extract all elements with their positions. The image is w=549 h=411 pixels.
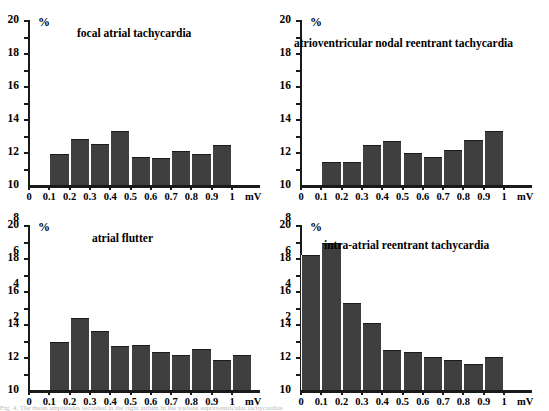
- bar-top-edge: [213, 360, 231, 361]
- y-axis-tick: 2: [24, 374, 28, 376]
- x-axis-tick: [442, 185, 444, 190]
- x-axis-tick: [150, 185, 152, 190]
- x-axis-tick-label: 0.7: [437, 192, 450, 203]
- bar-top-edge: [383, 350, 401, 351]
- bar-top-edge: [322, 162, 340, 163]
- chart-panel-atrial-flutter: 2468101214161820%00.10.20.30.40.50.60.70…: [0, 205, 274, 410]
- x-axis-tick: [69, 390, 71, 395]
- histogram-bar: [212, 145, 232, 185]
- y-axis-tick: 2: [24, 169, 28, 171]
- histogram-bar: [49, 154, 69, 185]
- y-axis-tick-label: 10: [280, 179, 292, 191]
- x-axis: [28, 185, 260, 188]
- y-axis-tick-label: 10: [280, 384, 292, 396]
- x-axis-tick-label: 1: [229, 192, 234, 203]
- y-axis-tick-label: 18: [8, 252, 20, 264]
- histogram-bar: [90, 144, 110, 185]
- x-axis-tick-label: 0.7: [165, 192, 178, 203]
- x-axis-tick: [483, 390, 485, 395]
- x-axis-tick-label: 0.9: [477, 192, 490, 203]
- x-axis-tick: [150, 390, 152, 395]
- x-axis-tick: [320, 185, 322, 190]
- plot-area: 2468101214161820%00.10.20.30.40.50.60.70…: [28, 20, 252, 187]
- bar-top-edge: [233, 355, 251, 356]
- histogram-bar: [443, 150, 463, 185]
- histogram-bar: [232, 355, 252, 390]
- y-axis-tick-label: 20: [8, 219, 20, 231]
- x-axis-tick: [130, 185, 132, 190]
- y-axis-tick: 18: [296, 242, 300, 244]
- chart-title: focal atrial tachycardia: [77, 28, 191, 40]
- y-axis-tick-label: 14: [8, 318, 20, 330]
- histogram-bar: [423, 157, 443, 185]
- x-axis-tick: [402, 390, 404, 395]
- y-axis-tick: 8: [296, 324, 300, 326]
- x-axis-tick: [231, 185, 233, 190]
- y-axis-tick-label: 18: [280, 47, 292, 59]
- bar-top-edge: [363, 323, 381, 324]
- bar-top-edge: [302, 255, 320, 256]
- y-axis-tick-label: 14: [280, 113, 292, 125]
- bar-top-edge: [152, 158, 170, 159]
- bar-top-edge: [464, 140, 482, 141]
- x-axis-unit-label: mV: [245, 192, 261, 203]
- histogram-bar: [362, 323, 382, 390]
- histogram-bar: [151, 352, 171, 390]
- x-axis-tick: [190, 390, 192, 395]
- x-axis-tick: [442, 390, 444, 395]
- chart-panel-focal-atrial-tachycardia: 2468101214161820%00.10.20.30.40.50.60.70…: [0, 0, 274, 205]
- x-axis-tick: [48, 185, 50, 190]
- x-axis-tick-label: 0: [26, 192, 31, 203]
- histogram-bar: [301, 255, 321, 390]
- y-axis-tick-label: 20: [280, 14, 292, 26]
- histogram-bar: [110, 346, 130, 390]
- histogram-bar: [191, 349, 211, 390]
- x-axis-tick: [462, 185, 464, 190]
- x-axis-tick: [381, 185, 383, 190]
- y-axis-tick-label: 18: [8, 47, 20, 59]
- bar-top-edge: [363, 145, 381, 146]
- x-axis-unit-label: mV: [517, 192, 533, 203]
- bar-top-edge: [172, 355, 190, 356]
- bar-top-edge: [152, 352, 170, 353]
- y-axis-tick: 8: [24, 324, 28, 326]
- bar-top-edge: [50, 154, 68, 155]
- y-axis-tick-label: 10: [8, 179, 20, 191]
- x-axis-tick: [381, 390, 383, 395]
- y-axis-tick: 14: [296, 275, 300, 277]
- bar-top-edge: [132, 157, 150, 158]
- y-axis-tick: 2: [296, 374, 300, 376]
- bar-top-edge: [192, 349, 210, 350]
- y-axis-tick: 12: [296, 291, 300, 293]
- x-axis-tick: [462, 390, 464, 395]
- x-axis-tick: [69, 185, 71, 190]
- histogram-bar: [131, 157, 151, 185]
- bar-top-edge: [464, 364, 482, 365]
- histogram-bar: [463, 140, 483, 185]
- histogram-bar: [484, 131, 504, 185]
- chart-panel-intra-atrial-reentrant-tachycardia: 2468101214161820%00.10.20.30.40.50.60.70…: [272, 205, 546, 410]
- histogram-bar: [151, 158, 171, 185]
- x-axis-tick: [190, 185, 192, 190]
- bar-top-edge: [444, 360, 462, 361]
- y-axis-tick: 6: [296, 136, 300, 138]
- bar-top-edge: [71, 318, 89, 319]
- y-axis-tick: 16: [296, 53, 300, 55]
- y-axis-tick: 14: [296, 70, 300, 72]
- y-axis-tick: 20: [296, 225, 300, 227]
- bar-top-edge: [111, 346, 129, 347]
- histogram-bar: [171, 151, 191, 185]
- y-axis-tick: 18: [24, 242, 28, 244]
- y-axis-tick: 10: [296, 103, 300, 105]
- x-axis-tick-label: 0.9: [205, 192, 218, 203]
- x-axis-tick-label: 0.1: [315, 192, 328, 203]
- histogram-bar: [321, 243, 341, 390]
- y-axis-tick: 16: [296, 258, 300, 260]
- x-axis-tick-label: 0.3: [83, 192, 96, 203]
- y-axis-tick: 4: [24, 152, 28, 154]
- x-axis-tick-label: 0.4: [104, 192, 117, 203]
- x-axis-tick: [361, 390, 363, 395]
- histogram-bar: [90, 331, 110, 390]
- y-axis-tick-label: 20: [280, 219, 292, 231]
- x-axis-tick: [422, 185, 424, 190]
